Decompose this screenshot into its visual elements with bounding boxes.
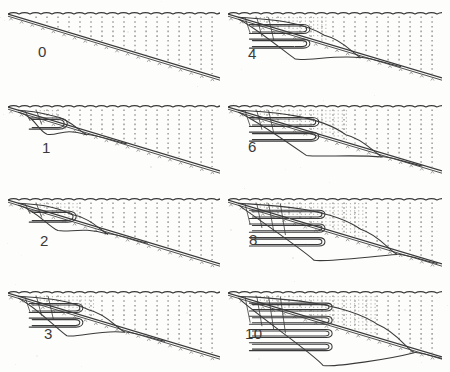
scan-speck — [3, 114, 4, 115]
slope-tick — [190, 166, 193, 168]
slope-tick — [179, 348, 182, 350]
vertical-grid-lines — [36, 17, 212, 75]
scan-speck — [323, 100, 324, 101]
slope-tick — [41, 307, 44, 309]
contour-lobe — [252, 331, 329, 336]
slope-tick — [211, 172, 214, 174]
scan-speck — [36, 355, 38, 357]
vertical-grid-lines — [36, 296, 212, 354]
vertical-grid-lines — [256, 110, 432, 167]
scan-speck — [127, 31, 129, 33]
slope-tick — [431, 78, 434, 80]
scan-speck — [15, 364, 16, 365]
scan-speck — [332, 123, 333, 124]
panel-t4 — [228, 4, 442, 88]
scan-speck — [437, 107, 438, 108]
slope-tick — [431, 264, 434, 266]
slope-tick — [200, 262, 203, 264]
scan-speck — [38, 103, 39, 104]
slope-tick — [126, 146, 129, 148]
slope-tick — [346, 146, 349, 148]
scan-speck — [361, 317, 363, 319]
slope-tick — [420, 261, 423, 263]
panel-time-label-3: 3 — [44, 326, 53, 341]
slope-tick — [304, 319, 307, 321]
slope-tick — [346, 332, 349, 334]
scan-speck — [343, 114, 344, 115]
slope-tick — [410, 165, 413, 167]
scan-speck — [421, 362, 422, 363]
slope-tick-marks — [229, 111, 434, 173]
slope-tick — [346, 239, 349, 241]
slope-tick — [84, 227, 87, 229]
front-lower-boundary — [239, 298, 415, 365]
slope-tick — [52, 217, 55, 219]
slope-tick — [229, 204, 232, 206]
scan-speck — [197, 86, 198, 87]
slope-tick — [190, 259, 193, 261]
slope-tick — [357, 242, 360, 244]
scan-speck — [285, 169, 286, 170]
slope-tick — [325, 47, 328, 49]
isopycnal-contours — [239, 296, 442, 365]
slope-tick — [190, 352, 193, 354]
slope-tick — [41, 214, 44, 216]
scan-speck — [300, 167, 301, 168]
slope-tick — [137, 57, 140, 59]
slope-line-upper — [8, 107, 220, 171]
scan-speck — [244, 188, 245, 189]
free-surface-line — [8, 106, 220, 107]
scan-speck — [4, 20, 5, 21]
scan-speck — [7, 243, 8, 244]
slope-tick — [378, 249, 381, 251]
slope-tick — [20, 21, 23, 23]
slope-tick — [261, 121, 264, 123]
slope-tick — [147, 60, 150, 62]
panel-canvas — [228, 97, 442, 181]
figure-panel-grid: 012346810 — [0, 0, 450, 372]
scan-speck — [47, 194, 48, 195]
slope-tick — [137, 243, 140, 245]
scan-speck — [314, 120, 315, 121]
slope-tick — [325, 326, 328, 328]
scan-speck — [161, 1, 162, 2]
slope-tick — [158, 249, 161, 251]
slope-tick — [179, 162, 182, 164]
panel-t8 — [228, 190, 442, 274]
slope-tick — [229, 18, 232, 20]
slope-tick — [410, 72, 413, 74]
slope-tick — [399, 69, 402, 71]
scan-speck — [305, 243, 306, 244]
scan-speck — [210, 50, 211, 51]
panel-time-label-10: 10 — [245, 326, 263, 341]
scan-speck — [374, 95, 375, 96]
scan-speck — [279, 137, 280, 138]
contour-lobe — [32, 320, 80, 326]
slope-tick — [105, 140, 108, 142]
free-surface-line — [228, 292, 442, 293]
scan-speck — [289, 218, 290, 219]
scan-speck — [107, 203, 108, 204]
contour-lobe — [252, 344, 329, 349]
slope-tick — [105, 326, 108, 328]
slope-tick — [41, 121, 44, 123]
slope-tick — [62, 34, 65, 36]
contour-lobe — [252, 41, 306, 47]
slope-tick — [431, 357, 434, 359]
scan-speck — [428, 242, 429, 243]
slope-tick — [168, 345, 171, 347]
scan-speck — [61, 204, 62, 205]
slope-tick — [420, 354, 423, 356]
slope-tick — [211, 265, 214, 267]
contour-connector — [245, 204, 250, 224]
slope-tick — [367, 245, 370, 247]
slope-tick — [378, 63, 381, 65]
slope-tick — [115, 143, 118, 145]
slope-tick — [388, 345, 391, 347]
slope-tick — [52, 124, 55, 126]
scan-speck — [154, 9, 155, 10]
slope-tick — [325, 140, 328, 142]
slope-tick — [335, 143, 338, 145]
scan-speck — [150, 166, 152, 168]
scan-speck — [233, 103, 234, 104]
